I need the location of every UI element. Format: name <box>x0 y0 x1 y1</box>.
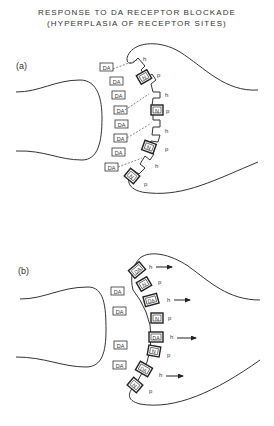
da-molecule: DA <box>110 77 123 85</box>
n-bound-site: N <box>151 313 163 323</box>
n-bound-site: N <box>127 377 143 392</box>
da-bound-site: DA <box>149 332 163 342</box>
site-labels-b: h p h p h p h p <box>149 264 173 394</box>
svg-text:DA: DA <box>117 136 125 142</box>
svg-text:N: N <box>155 108 159 114</box>
svg-text:h: h <box>159 372 162 378</box>
svg-text:h: h <box>165 92 168 98</box>
svg-text:p: p <box>158 279 162 285</box>
panel-a: DA DA DA DA DA DA DA DA N N N N h p h <box>16 44 258 194</box>
postsynaptic-membrane-b <box>129 254 260 405</box>
svg-text:p: p <box>157 72 161 78</box>
da-molecule: DA <box>111 287 124 295</box>
svg-text:DA: DA <box>116 363 124 369</box>
da-molecule: DA <box>100 63 113 71</box>
da-bound-site: DA <box>135 361 152 377</box>
svg-text:DA: DA <box>116 309 124 315</box>
da-bound-site: DA <box>143 293 159 306</box>
svg-text:DA: DA <box>117 108 125 114</box>
svg-text:p: p <box>166 108 170 114</box>
svg-text:p: p <box>165 146 169 152</box>
da-molecule: DA <box>112 148 125 156</box>
svg-text:h: h <box>155 163 158 169</box>
free-da-molecules-b: DA DA DA DA <box>111 287 127 369</box>
n-molecule: N <box>136 70 151 85</box>
svg-text:DA: DA <box>114 289 122 295</box>
svg-text:p: p <box>149 388 153 394</box>
svg-text:DA: DA <box>115 150 123 156</box>
n-bound-site: N <box>147 345 161 357</box>
svg-text:DA: DA <box>113 79 121 85</box>
free-da-molecules-a: DA DA DA DA DA DA DA DA <box>100 63 128 171</box>
da-molecule: DA <box>113 307 126 315</box>
svg-text:DA: DA <box>115 93 123 99</box>
n-molecule: N <box>124 168 140 183</box>
svg-text:p: p <box>168 315 172 321</box>
svg-text:DA: DA <box>103 65 111 71</box>
svg-text:p: p <box>144 181 148 187</box>
da-molecule: DA <box>115 120 128 128</box>
n-molecule: N <box>142 140 157 154</box>
n-bound-site: N <box>136 277 151 292</box>
svg-text:h: h <box>165 128 168 134</box>
svg-text:h: h <box>149 264 152 270</box>
postsynaptic-membrane-a <box>127 44 258 194</box>
da-molecule: DA <box>113 361 126 369</box>
svg-text:DA: DA <box>153 335 161 341</box>
da-molecule: DA <box>114 341 127 349</box>
svg-text:DA: DA <box>108 165 116 171</box>
presynaptic-terminal-a <box>16 80 102 160</box>
svg-text:DA: DA <box>118 122 126 128</box>
da-molecule: DA <box>114 134 127 142</box>
da-molecule: DA <box>105 163 118 171</box>
svg-text:N: N <box>155 316 159 322</box>
svg-text:h: h <box>143 56 146 62</box>
svg-text:p: p <box>167 352 171 358</box>
svg-text:h: h <box>170 334 173 340</box>
synapse-diagram: DA DA DA DA DA DA DA DA N N N N h p h <box>0 0 274 426</box>
svg-text:h: h <box>167 297 170 303</box>
svg-text:DA: DA <box>117 343 125 349</box>
da-bound-site: DA <box>128 262 145 279</box>
n-molecule: N <box>151 105 163 115</box>
presynaptic-terminal-b <box>16 287 106 367</box>
panel-b: DA DA DA DA DA N DA N DA N DA N h p h p … <box>16 254 260 405</box>
da-molecule: DA <box>112 91 125 99</box>
